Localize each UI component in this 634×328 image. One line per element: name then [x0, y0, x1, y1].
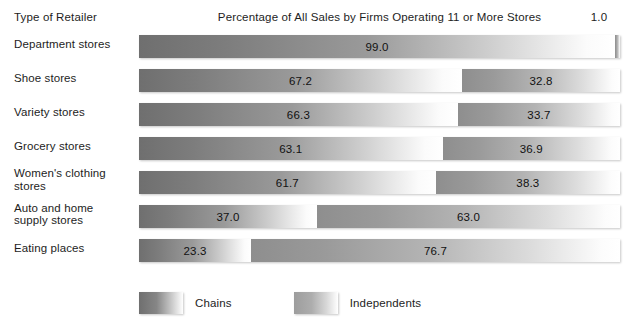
bar-segment-independents: 33.7: [458, 103, 620, 126]
bar-segment-independents: 38.3: [436, 171, 620, 194]
chart-rows: Department stores99.01.0Shoe stores67.23…: [0, 30, 634, 268]
category-axis-label: Type of Retailer: [14, 10, 97, 24]
stacked-bar: 66.333.7: [139, 103, 620, 126]
stacked-bar-chart: Type of Retailer Percentage of All Sales…: [0, 0, 634, 328]
row-label: Shoe stores: [14, 64, 134, 92]
stacked-bar: 67.232.8: [139, 69, 620, 92]
stacked-bar: 37.063.0: [139, 205, 620, 228]
bar-segment-independents: 63.0: [317, 205, 620, 228]
bar-value-label: 66.3: [287, 109, 310, 121]
row-label: Grocery stores: [14, 132, 134, 160]
bar-value-label: 63.0: [457, 211, 480, 223]
bar-value-label: 32.8: [530, 75, 553, 87]
bar-value-label: 76.7: [424, 245, 447, 257]
chart-row: Shoe stores67.232.8: [0, 64, 634, 98]
bar-segment-chains: 23.3: [139, 239, 251, 262]
independents-swatch-icon: [294, 292, 338, 314]
stacked-bar: 61.738.3: [139, 171, 620, 194]
chart-legend: ChainsIndependents: [139, 292, 421, 314]
bar-segment-independents: 32.8: [462, 69, 620, 92]
stacked-bar: 99.01.0: [139, 35, 620, 58]
row-label: Women's clothing stores: [14, 166, 134, 194]
bar-segment-independents: 1.0: [615, 35, 620, 58]
chains-swatch-icon: [139, 292, 183, 314]
bar-segment-chains: 66.3: [139, 103, 458, 126]
legend-item: Chains: [139, 292, 232, 314]
stacked-bar: 23.376.7: [139, 239, 620, 262]
bar-segment-independents: 36.9: [443, 137, 620, 160]
chart-row: Eating places23.376.7: [0, 234, 634, 268]
bar-value-label: 99.0: [366, 41, 389, 53]
axis-max-tick-label: 1.0: [578, 10, 620, 24]
bar-value-label: 36.9: [520, 143, 543, 155]
chart-title: Percentage of All Sales by Firms Operati…: [139, 10, 620, 24]
row-label: Auto and homesupply stores: [14, 200, 134, 228]
chart-row: Grocery stores63.136.9: [0, 132, 634, 166]
bar-value-label: 37.0: [216, 211, 239, 223]
chart-row: Women's clothing stores61.738.3: [0, 166, 634, 200]
chart-row: Department stores99.01.0: [0, 30, 634, 64]
bar-segment-independents: 76.7: [251, 239, 620, 262]
chart-row: Variety stores66.333.7: [0, 98, 634, 132]
bar-segment-chains: 37.0: [139, 205, 317, 228]
row-label: Eating places: [14, 234, 134, 262]
bar-segment-chains: 67.2: [139, 69, 462, 92]
bar-segment-chains: 61.7: [139, 171, 436, 194]
bar-value-label: 38.3: [516, 177, 539, 189]
bar-value-label: 23.3: [183, 245, 206, 257]
bar-value-label: 33.7: [527, 109, 550, 121]
legend-item: Independents: [294, 292, 422, 314]
legend-label: Chains: [195, 297, 232, 309]
stacked-bar: 63.136.9: [139, 137, 620, 160]
bar-value-label: 67.2: [289, 75, 312, 87]
row-label: Department stores: [14, 30, 134, 58]
row-label: Variety stores: [14, 98, 134, 126]
legend-label: Independents: [350, 297, 422, 309]
bar-value-label: 61.7: [276, 177, 299, 189]
chart-row: Auto and homesupply stores37.063.0: [0, 200, 634, 234]
bar-segment-chains: 99.0: [139, 35, 615, 58]
bar-value-label: 63.1: [279, 143, 302, 155]
bar-segment-chains: 63.1: [139, 137, 443, 160]
